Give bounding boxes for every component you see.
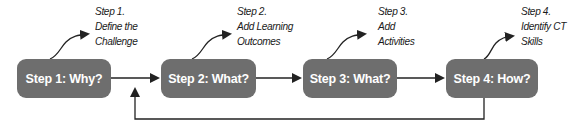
step-3-annotation: Step 3. Add Activities [378, 4, 414, 49]
step-4-box: Step 4: How? [446, 59, 538, 98]
step-2-box: Step 2: What? [161, 59, 256, 98]
curly-arrow-step3 [327, 34, 365, 59]
step-1-annotation-title: Step 1. [95, 4, 138, 19]
curly-arrow-step4 [484, 36, 513, 59]
step-2-annotation: Step 2. Add Learning Outcomes [237, 4, 293, 49]
step-2-box-label: Step 2: What? [168, 72, 249, 86]
step-3-annotation-line-1: Add [378, 19, 414, 34]
curly-arrow-step2 [192, 34, 230, 59]
step-4-box-label: Step 4: How? [454, 72, 531, 86]
step-2-annotation-title: Step 2. [237, 4, 293, 19]
curly-arrow-step1 [50, 34, 88, 59]
step-4-annotation: Step 4. Identify CT Skills [521, 4, 566, 49]
step-2-annotation-line-1: Add Learning [237, 19, 293, 34]
step-1-annotation-line-1: Define the [95, 19, 138, 34]
process-diagram: Step 1: Why? Step 2: What? Step 3: What?… [0, 0, 581, 129]
step-4-annotation-title: Step 4. [521, 4, 566, 19]
step-1-box-label: Step 1: Why? [26, 72, 103, 86]
step-3-box: Step 3: What? [303, 59, 397, 98]
step-1-annotation: Step 1. Define the Challenge [95, 4, 138, 49]
step-1-box: Step 1: Why? [17, 59, 111, 98]
step-4-annotation-line-2: Skills [521, 34, 566, 49]
step-4-annotation-line-1: Identify CT [521, 19, 566, 34]
step-3-annotation-title: Step 3. [378, 4, 414, 19]
step-2-annotation-line-2: Outcomes [237, 34, 293, 49]
step-1-annotation-line-2: Challenge [95, 34, 138, 49]
step-3-box-label: Step 3: What? [310, 72, 391, 86]
step-3-annotation-line-2: Activities [378, 34, 414, 49]
